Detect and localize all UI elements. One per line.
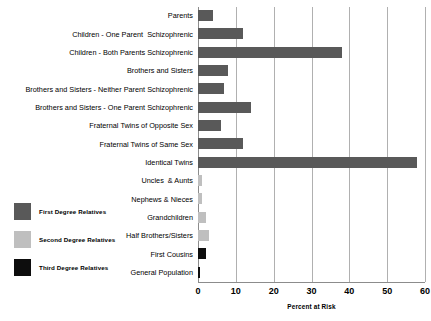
bar-row (198, 227, 425, 244)
x-axis-title: Percent at Risk (198, 303, 425, 310)
legend-label: Second Degree Relatives (39, 236, 115, 243)
bar (198, 157, 417, 168)
bar-row (198, 25, 425, 42)
x-tick-label: 30 (299, 286, 325, 296)
bar-row (198, 190, 425, 207)
bar-rows (198, 7, 425, 282)
bar (198, 83, 224, 94)
category-label: Fraternal Twins of Opposite Sex (0, 121, 193, 130)
category-label: First Cousins (0, 250, 193, 259)
bar-row (198, 7, 425, 24)
legend-swatch (14, 231, 31, 248)
category-label: Brothers and Sisters - Neither Parent Sc… (0, 85, 193, 94)
x-tick-label: 20 (261, 286, 287, 296)
category-label: Fraternal Twins of Same Sex (0, 140, 193, 149)
bar-row (198, 172, 425, 189)
bar-chart: ParentsChildren - One Parent Schizophren… (0, 0, 431, 321)
bar-row (198, 62, 425, 79)
bar-row (198, 80, 425, 97)
legend-item[interactable]: Third Degree Relatives (14, 259, 108, 276)
category-label: Brothers and Sisters - One Parent Schizo… (0, 103, 193, 112)
category-label: Uncles & Aunts (0, 176, 193, 185)
bar (198, 230, 209, 241)
bar (198, 248, 206, 259)
category-label: Children - Both Parents Schizophrenic (0, 48, 193, 57)
legend-label: Third Degree Relatives (39, 264, 108, 271)
bar (198, 10, 213, 21)
category-label: Identical Twins (0, 158, 193, 167)
bar-row (198, 209, 425, 226)
bar-row (198, 154, 425, 171)
bar (198, 102, 251, 113)
bar (198, 193, 202, 204)
bar-row (198, 99, 425, 116)
category-label: Children - One Parent Schizophrenic (0, 30, 193, 39)
category-label: Parents (0, 11, 193, 20)
category-label: Brothers and Sisters (0, 66, 193, 75)
bar (198, 47, 342, 58)
bar (198, 212, 206, 223)
legend-item[interactable]: Second Degree Relatives (14, 231, 115, 248)
legend-label: First Degree Relatives (39, 208, 106, 215)
x-tick-label: 50 (374, 286, 400, 296)
legend-swatch (14, 203, 31, 220)
bar-row (198, 135, 425, 152)
bar (198, 138, 243, 149)
bar-row (198, 264, 425, 281)
bar-row (198, 245, 425, 262)
x-axis-line (198, 282, 425, 283)
bar (198, 65, 228, 76)
legend-swatch (14, 259, 31, 276)
legend-item[interactable]: First Degree Relatives (14, 203, 106, 220)
x-tick-label: 0 (185, 286, 211, 296)
x-tick-label: 40 (336, 286, 362, 296)
gridline-60 (425, 7, 426, 282)
x-tick-label: 60 (412, 286, 431, 296)
bar-row (198, 44, 425, 61)
bar-row (198, 117, 425, 134)
bar (198, 28, 243, 39)
bar (198, 175, 202, 186)
bar (198, 267, 200, 278)
x-tick-label: 10 (223, 286, 249, 296)
bar (198, 120, 221, 131)
plot-area (198, 7, 425, 282)
